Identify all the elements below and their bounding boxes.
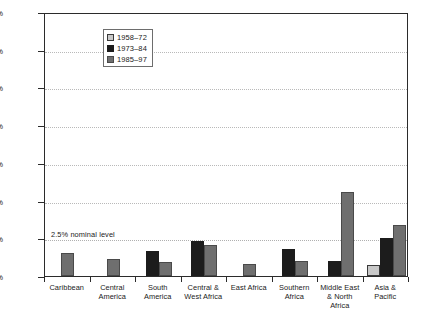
bar-group [364, 14, 409, 276]
x-category-label-line: Asia & [357, 283, 413, 292]
legend-label: 1973–84 [117, 44, 147, 53]
legend-label: 1958–72 [117, 33, 147, 42]
bar [204, 245, 217, 276]
y-tick-label: 0.0% [0, 273, 3, 282]
legend-swatch [107, 34, 114, 41]
bar [393, 225, 406, 276]
bar [107, 259, 120, 276]
bar [159, 262, 172, 276]
y-tick-label: 17.5% [0, 9, 3, 18]
x-tick-mark [363, 277, 364, 282]
bar [282, 249, 295, 276]
bar [341, 192, 354, 276]
bar [146, 251, 159, 276]
x-tick-mark [135, 277, 136, 282]
x-category-label-line: Pacific [357, 292, 413, 301]
bar [328, 261, 341, 276]
x-tick-mark [44, 277, 45, 282]
bar [367, 265, 380, 276]
x-tick-mark [90, 277, 91, 282]
legend-label: 1985–97 [117, 55, 147, 64]
bar-group [182, 14, 228, 276]
x-category-label-line: West Africa [175, 292, 231, 301]
x-tick-mark [181, 277, 182, 282]
legend-item: 1985–97 [107, 54, 147, 64]
bar [191, 241, 204, 276]
y-tick-label: 2.5% [0, 235, 3, 244]
x-tick-mark [272, 277, 273, 282]
bar-group [227, 14, 273, 276]
bar-group [45, 14, 91, 276]
bar-group [318, 14, 364, 276]
y-tick-label: 15.0% [0, 46, 3, 55]
legend: 1958–721973–841985–97 [103, 29, 153, 67]
plot-area: 2.5% nominal level 1958–721973–841985–97 [44, 13, 408, 277]
x-category-label-line: Africa [312, 301, 368, 310]
bar [295, 261, 308, 276]
x-tick-mark [226, 277, 227, 282]
bar [61, 253, 74, 276]
x-category-label: Asia &Pacific [357, 283, 413, 301]
x-tick-mark [317, 277, 318, 282]
y-tick-label: 7.5% [0, 159, 3, 168]
legend-swatch [107, 45, 114, 52]
y-tick-label: 5.0% [0, 197, 3, 206]
bar-group [273, 14, 319, 276]
legend-item: 1973–84 [107, 43, 147, 53]
legend-item: 1958–72 [107, 32, 147, 42]
x-tick-mark [408, 277, 409, 282]
bar [243, 264, 256, 276]
bar-chart: 0.0%2.5%5.0%7.5%10.0%12.5%15.0%17.5% 2.5… [0, 0, 422, 321]
legend-swatch [107, 56, 114, 63]
bar [380, 238, 393, 276]
y-tick-label: 12.5% [0, 84, 3, 93]
y-tick-label: 10.0% [0, 122, 3, 131]
